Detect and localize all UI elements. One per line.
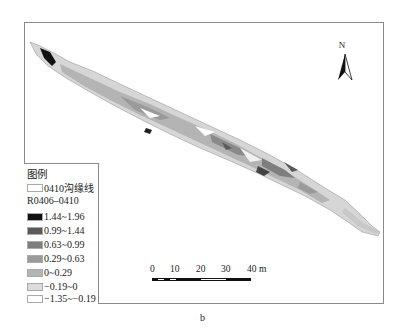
legend-item-class-2: 0.99~1.44 (27, 224, 84, 237)
legend-item-class-5: 0~0.29 (27, 266, 72, 279)
scale-segment (201, 278, 226, 281)
legend-item-gully-edge: 0410沟缘线 (27, 181, 94, 194)
legend-label: −1.35~−0.19 (44, 293, 96, 304)
legend-box: 图例 0410沟缘线 R0406–0410 1.44~1.96 0.99~1.4… (24, 163, 99, 304)
legend-label: −0.19~0 (44, 281, 78, 292)
scale-tick: 20 (196, 264, 206, 274)
legend-swatch (27, 213, 43, 221)
scale-tick: 40 m (247, 264, 266, 274)
legend-swatch (27, 227, 43, 235)
scale-tick: 30 (221, 264, 231, 274)
legend-label: 0410沟缘线 (44, 180, 94, 195)
legend-label: 0.63~0.99 (44, 239, 84, 250)
scale-tick: 0 (150, 264, 155, 274)
legend-label: 0.29~0.63 (44, 253, 84, 264)
legend-swatch (27, 255, 43, 263)
legend-swatch (27, 295, 43, 303)
legend-item-class-3: 0.63~0.99 (27, 238, 84, 251)
legend-item-class-4: 0.29~0.63 (27, 252, 84, 265)
legend-label: 1.44~1.96 (44, 211, 84, 222)
scale-tick: 10 (170, 264, 180, 274)
scale-segment (226, 278, 251, 281)
legend-swatch (27, 184, 43, 192)
legend-label: 0~0.29 (44, 267, 72, 278)
legend-item-class-1: 1.44~1.96 (27, 210, 84, 223)
figure-caption: b (0, 312, 405, 323)
legend-swatch (27, 269, 43, 277)
legend-swatch (27, 283, 43, 291)
legend-item-class-7: −1.35~−0.19 (27, 292, 96, 305)
scale-bar: 0 10 20 30 40 m (150, 264, 330, 284)
scale-segment (176, 278, 201, 281)
legend-swatch (27, 241, 43, 249)
legend-title: 图例 (27, 166, 47, 181)
legend-label: 0.99~1.44 (44, 225, 84, 236)
legend-layer-name: R0406–0410 (27, 195, 79, 206)
north-arrow-icon (334, 42, 356, 82)
